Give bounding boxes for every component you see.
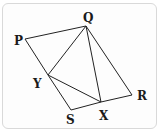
point-label-p: P bbox=[14, 34, 23, 48]
point-labels: PQRSYX bbox=[14, 11, 148, 127]
segment-YP bbox=[25, 39, 48, 75]
point-label-q: Q bbox=[83, 11, 93, 25]
segment-SY bbox=[48, 75, 71, 110]
point-label-s: S bbox=[66, 113, 75, 127]
segment-YX bbox=[48, 75, 101, 102]
segment-XS bbox=[71, 102, 101, 110]
geometry-diagram: PQRSYX bbox=[0, 0, 161, 133]
point-label-r: R bbox=[137, 89, 148, 103]
point-label-y: Y bbox=[32, 77, 42, 91]
segment-RX bbox=[101, 95, 132, 102]
segments bbox=[25, 26, 132, 110]
point-label-x: X bbox=[99, 109, 109, 123]
